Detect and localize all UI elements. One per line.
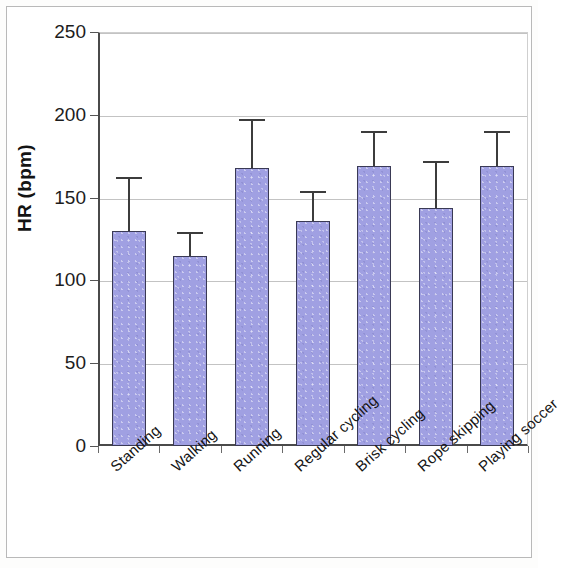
error-bar-stem <box>312 193 314 221</box>
bar <box>235 168 269 446</box>
error-bar-stem <box>373 133 375 166</box>
y-tick-label-100: 100 <box>2 269 86 291</box>
error-bar-stem <box>128 179 130 230</box>
error-bar-cap <box>484 131 510 133</box>
y-tick-label-200: 200 <box>2 104 86 126</box>
y-tick-label-0: 0 <box>2 435 86 457</box>
bar-group-rope-skipping <box>419 32 453 446</box>
bar-group-regular-cycling <box>296 32 330 446</box>
bar-group-walking <box>173 32 207 446</box>
bar-group-brisk-cycling <box>357 32 391 446</box>
x-tick-mark <box>159 446 160 453</box>
y-tick-mark-100 <box>90 280 98 281</box>
x-axis-ticks <box>98 446 528 456</box>
error-bar-cap <box>116 177 142 179</box>
error-bar-stem <box>435 163 437 208</box>
y-tick-mark-0 <box>90 446 98 447</box>
x-tick-mark <box>282 446 283 453</box>
bar-group-running <box>235 32 269 446</box>
y-tick-label-250: 250 <box>2 21 86 43</box>
bar <box>296 221 330 446</box>
bar-group-standing <box>112 32 146 446</box>
y-axis-ticks: 250 200 150 100 50 0 <box>0 32 98 446</box>
x-tick-mark <box>528 446 529 453</box>
error-bar-cap <box>177 232 203 234</box>
y-tick-mark-250 <box>90 32 98 33</box>
bar <box>480 166 514 446</box>
error-bar-cap <box>239 119 265 121</box>
bar <box>419 208 453 446</box>
bar <box>173 256 207 446</box>
y-tick-mark-50 <box>90 363 98 364</box>
y-axis-title: HR (bpm) <box>14 144 36 232</box>
y-tick-mark-200 <box>90 115 98 116</box>
bars-layer <box>98 32 528 446</box>
error-bar-stem <box>496 133 498 166</box>
bar <box>357 166 391 446</box>
x-tick-mark <box>405 446 406 453</box>
error-bar-cap <box>361 131 387 133</box>
error-bar-cap <box>423 161 449 163</box>
x-tick-mark <box>221 446 222 453</box>
bar <box>112 231 146 446</box>
x-tick-mark <box>467 446 468 453</box>
x-tick-mark <box>344 446 345 453</box>
x-tick-mark <box>98 446 99 453</box>
y-tick-mark-150 <box>90 198 98 199</box>
error-bar-stem <box>251 121 253 167</box>
error-bar-stem <box>189 234 191 256</box>
error-bar-cap <box>300 191 326 193</box>
y-tick-label-50: 50 <box>2 352 86 374</box>
bar-group-playing-soccer <box>480 32 514 446</box>
